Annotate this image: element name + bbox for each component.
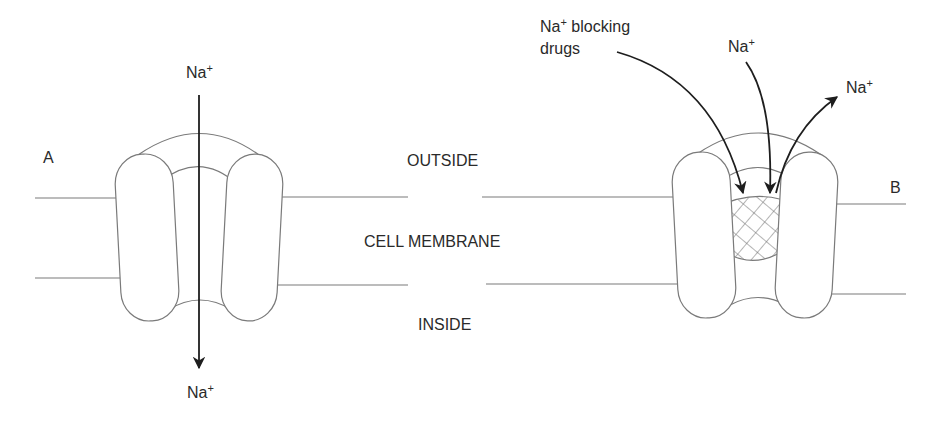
sodium-channel-diagram [0, 0, 937, 425]
drug-label: Na+ blocking drugs [540, 16, 630, 60]
na-bottom-label-a: Na+ [187, 383, 214, 402]
panel-b-label: B [890, 178, 901, 197]
na-out-label-b: Na+ [846, 78, 873, 97]
panel-a-label: A [43, 148, 54, 167]
sodium-in-arrow [746, 62, 770, 193]
channel-a-right-subunit [220, 153, 285, 323]
channel-a-left-subunit [114, 153, 181, 323]
inside-label: INSIDE [418, 315, 471, 334]
na-in-label-b: Na+ [728, 37, 755, 56]
outside-label: OUTSIDE [407, 151, 478, 170]
membrane-lines-left [35, 197, 408, 285]
na-top-label-a: Na+ [186, 63, 213, 82]
cell-membrane-label: CELL MEMBRANE [364, 232, 500, 251]
channel-b [671, 133, 840, 319]
channel-b-right-subunit [774, 151, 840, 320]
channel-b-left-subunit [671, 151, 738, 320]
